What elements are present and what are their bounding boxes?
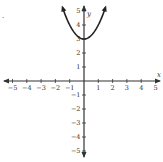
y-tick-label: 2 bbox=[76, 49, 80, 57]
x-tick-label: 4 bbox=[139, 84, 143, 92]
x-tick-label: 1 bbox=[96, 84, 100, 92]
x-tick-label: −3 bbox=[36, 84, 46, 92]
y-tick-label: −5 bbox=[71, 147, 81, 155]
y-axis-down-arrow-icon bbox=[82, 152, 87, 158]
x-tick-label: −2 bbox=[51, 84, 61, 92]
x-tick-label: 3 bbox=[125, 84, 129, 92]
y-axis-label: y bbox=[86, 10, 92, 18]
y-axis-up-arrow-icon bbox=[82, 5, 87, 11]
y-tick-label: −3 bbox=[71, 119, 81, 127]
y-tick-label: 5 bbox=[76, 7, 80, 15]
y-tick-label: −1 bbox=[71, 91, 81, 99]
x-tick-label: 5 bbox=[153, 84, 157, 92]
curve-left-arrow-icon bbox=[61, 6, 66, 13]
x-tick-label: −4 bbox=[22, 84, 32, 92]
y-tick-label: 1 bbox=[76, 63, 80, 71]
y-tick-label: −4 bbox=[71, 133, 81, 141]
coordinate-plane: −5−4−3−2−112345−5−4−3−2−112345 x y bbox=[0, 0, 163, 162]
x-tick-label: −5 bbox=[8, 84, 18, 92]
x-axis-label: x bbox=[157, 71, 161, 79]
y-tick-label: −2 bbox=[71, 105, 81, 113]
x-axis-left-arrow-icon bbox=[3, 79, 9, 84]
y-tick-label: 4 bbox=[76, 21, 80, 29]
x-tick-label: 2 bbox=[111, 84, 115, 92]
curve-right-arrow-icon bbox=[102, 6, 107, 13]
